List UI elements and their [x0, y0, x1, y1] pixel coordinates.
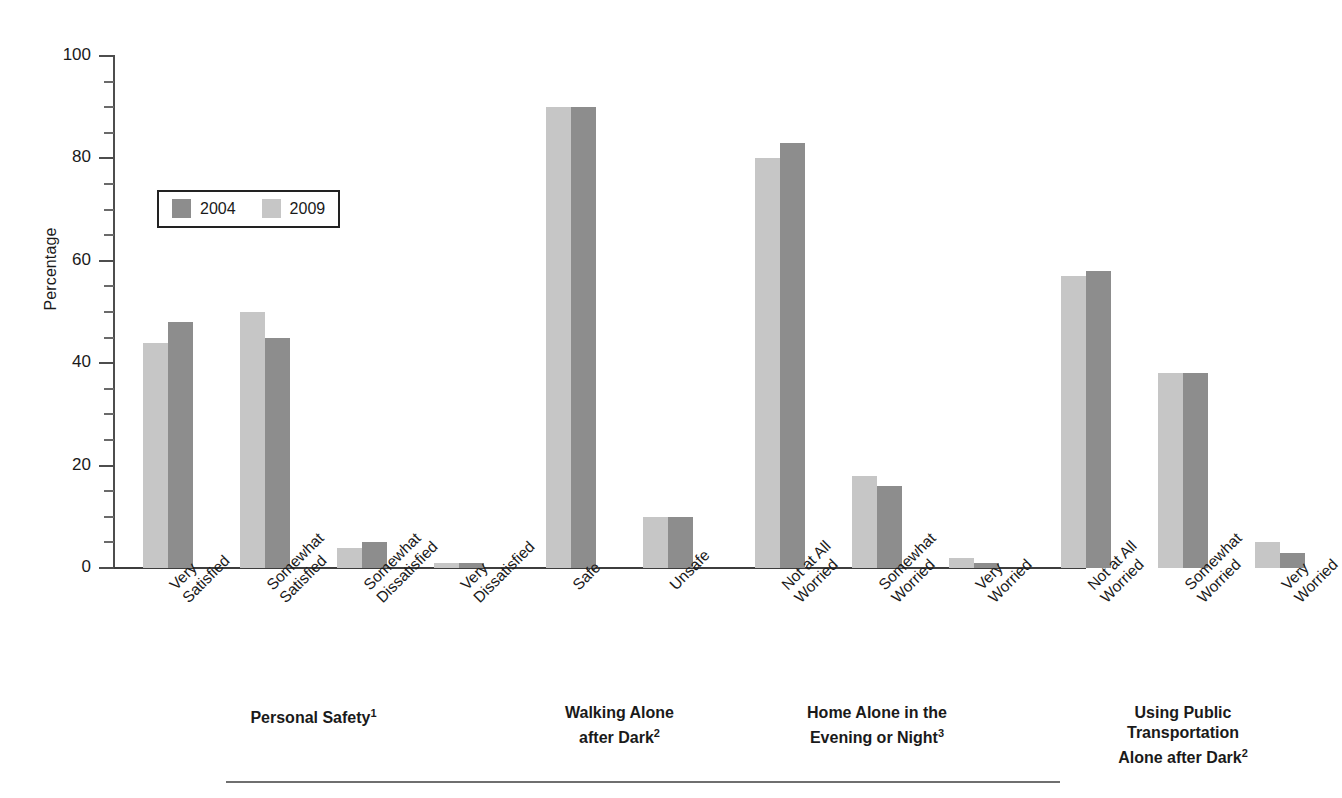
group-title-footnote-marker: 3: [938, 727, 944, 739]
bar: [240, 312, 265, 568]
legend-entry-2004: 2004: [172, 199, 236, 218]
group-title: Using PublicTransportationAlone after Da…: [1043, 703, 1323, 768]
bar: [1158, 373, 1183, 568]
group-title: Walking Aloneafter Dark2: [480, 703, 760, 748]
legend-swatch-2009: [262, 199, 281, 218]
bar: [780, 143, 805, 568]
group-title-line: Personal Safety1: [174, 703, 454, 728]
legend-swatch-2004: [172, 199, 191, 218]
bar: [1255, 542, 1280, 568]
group-title-line: Walking Alone: [480, 703, 760, 723]
plot-area: [0, 55, 1108, 568]
bar: [949, 558, 974, 568]
bar: [265, 338, 290, 568]
bar: [1061, 276, 1086, 568]
group-title: Personal Safety1: [174, 703, 454, 728]
bar: [877, 486, 902, 568]
bar: [571, 107, 596, 568]
group-title-line: Using Public: [1043, 703, 1323, 723]
bar: [337, 548, 362, 568]
legend-entry-2009: 2009: [262, 199, 326, 218]
group-title-line: Alone after Dark2: [1043, 743, 1323, 768]
bar: [546, 107, 571, 568]
legend: 2004 2009: [157, 190, 340, 228]
group-title-line: Transportation: [1043, 723, 1323, 743]
group-title-line: after Dark2: [480, 723, 760, 748]
bar: [1086, 271, 1111, 568]
legend-label-2009: 2009: [290, 201, 326, 217]
group-title-footnote-marker: 1: [370, 707, 376, 719]
bar: [755, 158, 780, 568]
group-title-footnote-marker: 2: [1242, 747, 1248, 759]
bar: [434, 563, 459, 568]
group-title-line: Home Alone in the: [737, 703, 1017, 723]
group-title: Home Alone in theEvening or Night3: [737, 703, 1017, 748]
group-title-footnote-marker: 2: [654, 727, 660, 739]
bar: [143, 343, 168, 568]
legend-label-2004: 2004: [200, 201, 236, 217]
bar: [643, 517, 668, 568]
bar: [1183, 373, 1208, 568]
bar: [168, 322, 193, 568]
group-title-line: Evening or Night3: [737, 723, 1017, 748]
footer-divider-rule: [226, 781, 1060, 783]
bar: [852, 476, 877, 568]
